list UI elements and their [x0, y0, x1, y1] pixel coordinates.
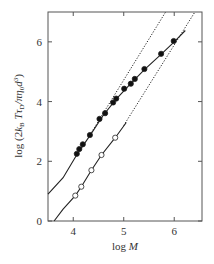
y-tick-label: 2: [37, 155, 43, 167]
plot-frame: [48, 12, 202, 221]
dotted-line: [124, 12, 195, 126]
filled-data-point: [132, 76, 137, 81]
filled-data-point: [114, 96, 119, 101]
open-data-point: [79, 184, 84, 189]
y-tick-label: 4: [37, 96, 43, 108]
data-points: [73, 38, 177, 198]
filled-data-point: [122, 86, 127, 91]
solid-line: [48, 31, 185, 195]
x-tick-label: 5: [121, 225, 127, 237]
open-data-point: [73, 193, 78, 198]
filled-data-point: [142, 66, 147, 71]
open-data-point: [89, 168, 94, 173]
open-data-point: [99, 152, 104, 157]
y-tick-label: 0: [37, 215, 43, 227]
y-axis-label: log (2kB TτD/πη0d3): [12, 74, 26, 158]
filled-data-point: [171, 38, 176, 43]
x-tick-label: 6: [171, 225, 177, 237]
filled-data-point: [87, 132, 92, 137]
filled-data-point: [159, 51, 164, 56]
x-tick-label: 4: [70, 225, 76, 237]
plot-border: [48, 12, 202, 221]
filled-data-point: [77, 146, 82, 151]
filled-data-point: [97, 116, 102, 121]
y-tick-label: 6: [37, 36, 43, 48]
filled-data-point: [103, 111, 108, 116]
filled-data-point: [74, 151, 79, 156]
filled-data-point: [80, 142, 85, 147]
open-data-point: [113, 135, 118, 140]
chart: 4560246 log M log (2kB TτD/πη0d3): [0, 0, 214, 264]
filled-data-point: [128, 81, 133, 86]
axis-ticks: 4560246: [37, 12, 203, 237]
x-axis-label: log M: [112, 240, 139, 252]
